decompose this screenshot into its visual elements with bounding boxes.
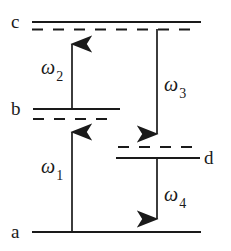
level-label-d: d: [204, 148, 214, 167]
level-c: [32, 22, 201, 30]
omega-symbol: ω: [164, 73, 178, 95]
omega-subscript: 2: [56, 69, 63, 84]
transition-label-omega1: ω1: [41, 156, 62, 176]
level-label-b: b: [11, 99, 21, 118]
omega-symbol: ω: [41, 155, 55, 177]
level-b: [33, 109, 120, 119]
level-d: [116, 147, 200, 158]
diagram-canvas: [0, 0, 231, 251]
omega-subscript: 4: [179, 196, 186, 211]
omega-symbol: ω: [164, 183, 178, 205]
omega-subscript: 1: [56, 168, 63, 183]
transition-label-omega3: ω3: [164, 74, 185, 94]
omega-subscript: 3: [179, 86, 186, 101]
level-label-c: c: [11, 12, 19, 31]
omega-symbol: ω: [41, 56, 55, 78]
level-label-a: a: [11, 222, 19, 241]
transition-label-omega4: ω4: [164, 184, 185, 204]
energy-level-diagram: c b d a ω2 ω1 ω3 ω4: [0, 0, 231, 251]
transition-label-omega2: ω2: [41, 57, 62, 77]
